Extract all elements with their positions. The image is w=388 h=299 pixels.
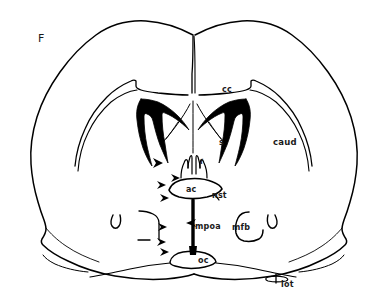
label-panel: F bbox=[38, 33, 45, 44]
label-mfb: mfb bbox=[232, 224, 250, 232]
label-nst: nst bbox=[212, 192, 227, 200]
label-mpoa: mpoa bbox=[195, 223, 221, 231]
label-oc: oc bbox=[198, 257, 209, 265]
label-lot: lot bbox=[281, 281, 294, 289]
coronal-brain-section-drawing bbox=[0, 0, 388, 299]
label-f: f bbox=[200, 159, 203, 166]
label-caud: caud bbox=[273, 138, 297, 147]
label-s: s bbox=[219, 139, 224, 147]
label-cc: cc bbox=[222, 86, 232, 94]
third-ventricle-bar-flare bbox=[189, 246, 197, 255]
label-ac: ac bbox=[186, 186, 197, 194]
figure-root: Fcccaudsfacnstmpoamfboclot bbox=[0, 0, 388, 299]
